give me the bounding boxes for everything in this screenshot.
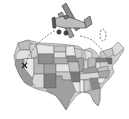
- biplane-wheel: [57, 30, 61, 34]
- state-missouri: [68, 62, 80, 72]
- biplane: [52, 3, 92, 38]
- state-new-england: [112, 42, 124, 56]
- state-kansas: [56, 64, 70, 72]
- state-colorado: [44, 64, 56, 74]
- state-new-mexico: [44, 74, 56, 88]
- state-south-dakota: [54, 52, 66, 58]
- state-mississippi: [80, 80, 84, 92]
- us-map: [14, 40, 124, 110]
- state-wyoming: [38, 54, 54, 64]
- state-north-dakota: [54, 46, 66, 52]
- state-alabama: [84, 80, 90, 92]
- biplane-pilot: [64, 15, 68, 19]
- biplane-fuselage: [54, 16, 88, 28]
- us-map-biplane-illustration: [0, 0, 129, 119]
- flight-loop: [100, 29, 106, 41]
- biplane-wheel: [64, 31, 68, 35]
- state-montana: [36, 44, 54, 54]
- biplane-propeller: [52, 17, 56, 28]
- state-nebraska: [54, 58, 68, 64]
- state-arkansas: [70, 72, 80, 82]
- state-new-jersey: [108, 58, 112, 64]
